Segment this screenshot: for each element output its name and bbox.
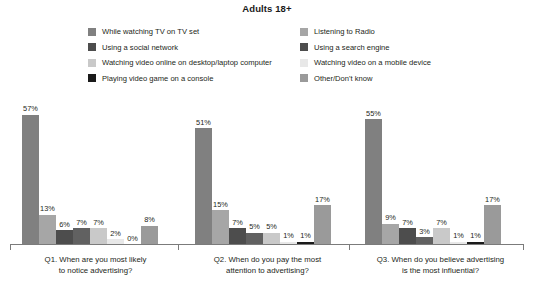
bar-value-label: 7%	[232, 219, 243, 227]
bar-value-label: 7%	[76, 219, 87, 227]
bar-value-label: 1%	[453, 232, 464, 240]
bar-value-label: 0%	[127, 235, 138, 243]
bar-value-label: 17%	[485, 196, 500, 204]
bar-column[interactable]: 1%	[280, 92, 297, 244]
legend-item[interactable]: Playing video game on a console	[88, 71, 303, 87]
bar-column[interactable]: 57%	[22, 92, 39, 244]
bar[interactable]	[314, 205, 331, 244]
bar-column[interactable]: 7%	[90, 92, 107, 244]
bar-column[interactable]: 7%	[433, 92, 450, 244]
legend-column-left: While watching TV on TV setUsing a socia…	[88, 24, 303, 86]
bar[interactable]	[141, 226, 158, 244]
category-label: Q3. When do you believe advertisingis th…	[358, 255, 523, 276]
bar-chart: Adults 18+ While watching TV on TV setUs…	[0, 0, 534, 286]
bar[interactable]	[90, 228, 107, 244]
bar-value-label: 6%	[59, 221, 70, 229]
legend-swatch-icon	[300, 74, 308, 82]
axis-tick	[523, 244, 524, 250]
bar[interactable]	[433, 228, 450, 244]
x-axis	[10, 244, 524, 252]
bar-column[interactable]: 5%	[263, 92, 280, 244]
chart-legend: While watching TV on TV setUsing a socia…	[0, 24, 534, 90]
bar[interactable]	[246, 233, 263, 244]
bar[interactable]	[229, 228, 246, 244]
bar-column[interactable]: 55%	[365, 92, 382, 244]
legend-item[interactable]: Other/Don't know	[300, 71, 530, 87]
category-label-line1: Q2. When do you pay the most	[190, 255, 345, 266]
bar-value-label: 1%	[470, 232, 481, 240]
bar[interactable]	[399, 228, 416, 244]
category-label-line2: attention to advertising?	[190, 266, 345, 277]
axis-tick	[10, 244, 11, 250]
bar-column[interactable]: 15%	[212, 92, 229, 244]
bar-column[interactable]: 9%	[382, 92, 399, 244]
bar-column[interactable]: 0%	[124, 92, 141, 244]
bar-value-label: 7%	[436, 219, 447, 227]
category-label: Q2. When do you pay the mostattention to…	[190, 255, 345, 276]
legend-swatch-icon	[300, 59, 308, 67]
legend-item[interactable]: Using a search engine	[300, 40, 530, 56]
bar-column[interactable]: 1%	[297, 92, 314, 244]
legend-item-label: Watching video online on desktop/laptop …	[102, 58, 272, 67]
bar-value-label: 5%	[266, 223, 277, 231]
bar[interactable]	[195, 128, 212, 244]
bar-value-label: 57%	[23, 105, 38, 113]
bar-value-label: 5%	[249, 223, 260, 231]
category-label-line1: Q1. When are you most likely	[18, 255, 173, 266]
bar-value-label: 3%	[419, 228, 430, 236]
category-label-line2: is the most influential?	[358, 266, 523, 277]
legend-swatch-icon	[88, 43, 96, 51]
category-labels: Q1. When are you most likelyto notice ad…	[10, 255, 524, 285]
bar-value-label: 8%	[144, 216, 155, 224]
bar[interactable]	[382, 224, 399, 244]
bar[interactable]	[22, 115, 39, 244]
bar-value-label: 1%	[300, 232, 311, 240]
legend-item[interactable]: While watching TV on TV set	[88, 24, 303, 40]
axis-tick	[349, 244, 350, 250]
bar-column[interactable]: 7%	[399, 92, 416, 244]
bar[interactable]	[212, 210, 229, 244]
legend-swatch-icon	[300, 28, 308, 36]
bar-column[interactable]: 7%	[229, 92, 246, 244]
legend-item-label: Other/Don't know	[314, 74, 372, 83]
legend-item[interactable]: Watching video online on desktop/laptop …	[88, 55, 303, 71]
bar-column[interactable]: 17%	[484, 92, 501, 244]
bar-value-label: 15%	[213, 201, 228, 209]
legend-swatch-icon	[88, 28, 96, 36]
bar-column[interactable]: 6%	[56, 92, 73, 244]
bar-column[interactable]: 1%	[450, 92, 467, 244]
bar-column[interactable]: 5%	[246, 92, 263, 244]
bar-value-label: 51%	[196, 119, 211, 127]
category-label-line1: Q3. When do you believe advertising	[358, 255, 523, 266]
bar-column[interactable]: 17%	[314, 92, 331, 244]
bar[interactable]	[365, 119, 382, 244]
bar-value-label: 17%	[315, 196, 330, 204]
bar[interactable]	[484, 205, 501, 244]
bar[interactable]	[263, 233, 280, 244]
legend-item-label: Using a search engine	[314, 43, 390, 52]
bar-value-label: 7%	[402, 219, 413, 227]
bar[interactable]	[56, 230, 73, 244]
bar-value-label: 13%	[40, 205, 55, 213]
legend-swatch-icon	[88, 74, 96, 82]
legend-item[interactable]: Listening to Radio	[300, 24, 530, 40]
legend-item[interactable]: Watching video on a mobile device	[300, 55, 530, 71]
bar-value-label: 2%	[110, 230, 121, 238]
plot-area: 57%13%6%7%7%2%0%8%51%15%7%5%5%1%1%17%55%…	[10, 92, 524, 244]
bar-column[interactable]: 1%	[467, 92, 484, 244]
bar-value-label: 1%	[283, 232, 294, 240]
bar[interactable]	[39, 215, 56, 244]
bar-column[interactable]: 7%	[73, 92, 90, 244]
legend-column-right: Listening to RadioUsing a search engineW…	[300, 24, 530, 86]
legend-item[interactable]: Using a social network	[88, 40, 303, 56]
bar[interactable]	[416, 237, 433, 244]
bar-column[interactable]: 13%	[39, 92, 56, 244]
axis-tick	[178, 244, 179, 250]
category-label-line2: to notice advertising?	[18, 266, 173, 277]
bar-column[interactable]: 8%	[141, 92, 158, 244]
bar-column[interactable]: 51%	[195, 92, 212, 244]
bar-column[interactable]: 2%	[107, 92, 124, 244]
bar[interactable]	[73, 228, 90, 244]
bar-column[interactable]: 3%	[416, 92, 433, 244]
legend-item-label: Using a social network	[102, 43, 178, 52]
